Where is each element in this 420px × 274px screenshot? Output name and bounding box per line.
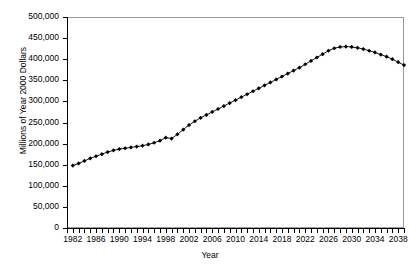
- x-axis-tick-mark: [119, 229, 120, 233]
- x-axis-tick-mark: [369, 229, 370, 233]
- x-axis-tick-mark: [73, 229, 74, 233]
- x-axis-tick-mark: [143, 229, 144, 233]
- x-axis-tick-mark: [189, 229, 190, 233]
- x-axis-tick-mark: [288, 229, 289, 233]
- x-axis-tick-mark: [270, 229, 271, 233]
- x-axis-tick-mark: [154, 229, 155, 233]
- x-axis-tick-mark: [84, 229, 85, 233]
- y-axis-tick-label: 400,000: [3, 54, 59, 63]
- y-axis-tick-label: 200,000: [3, 139, 59, 148]
- x-axis-tick-mark: [398, 229, 399, 233]
- x-axis-tick-mark: [230, 229, 231, 233]
- y-axis-tick-mark: [63, 80, 67, 81]
- y-axis-title: Millions of Year 2000 Dollars: [19, 11, 28, 191]
- y-axis-tick-label: 500,000: [3, 12, 59, 21]
- x-axis-tick-mark: [340, 229, 341, 233]
- chart-figure: 050,000100,000150,000200,000250,000300,0…: [0, 0, 420, 274]
- x-axis-tick-mark: [224, 229, 225, 233]
- x-axis-tick-mark: [206, 229, 207, 233]
- x-axis-tick-mark: [137, 229, 138, 233]
- x-axis-tick-mark: [392, 229, 393, 233]
- x-axis-tick-mark: [96, 229, 97, 233]
- y-axis-tick-label: 300,000: [3, 96, 59, 105]
- plot-area: [67, 17, 404, 228]
- x-axis-tick-mark: [172, 229, 173, 233]
- x-axis-tick-mark: [299, 229, 300, 233]
- x-axis-tick-mark: [241, 229, 242, 233]
- x-axis-tick-mark: [282, 229, 283, 233]
- x-axis-tick-mark: [375, 229, 376, 233]
- x-axis-tick-mark: [102, 229, 103, 233]
- x-axis-tick-mark: [352, 229, 353, 233]
- y-axis-tick-mark: [63, 186, 67, 187]
- x-axis-tick-mark: [346, 229, 347, 233]
- x-axis-tick-mark: [334, 229, 335, 233]
- x-axis-tick-mark: [381, 229, 382, 233]
- y-axis-tick-mark: [63, 207, 67, 208]
- x-axis-tick-mark: [212, 229, 213, 233]
- x-axis-tick-mark: [125, 229, 126, 233]
- x-axis-tick-mark: [305, 229, 306, 233]
- x-axis-tick-mark: [363, 229, 364, 233]
- y-axis-tick-mark: [63, 123, 67, 124]
- x-axis-tick-mark: [294, 229, 295, 233]
- y-axis-tick-label: 100,000: [3, 181, 59, 190]
- x-axis-tick-mark: [404, 229, 405, 233]
- y-axis-tick-mark: [63, 165, 67, 166]
- x-axis-tick-mark: [79, 229, 80, 233]
- x-axis-tick-mark: [236, 229, 237, 233]
- y-axis-line: [67, 17, 68, 229]
- x-axis-tick-mark: [218, 229, 219, 233]
- x-axis-tick-mark: [247, 229, 248, 233]
- y-axis-tick-label: 450,000: [3, 33, 59, 42]
- x-axis-tick-mark: [358, 229, 359, 233]
- x-axis-tick-mark: [160, 229, 161, 233]
- x-axis-title: Year: [0, 250, 420, 260]
- y-axis-tick-mark: [63, 38, 67, 39]
- y-axis-tick-label: 0: [3, 223, 59, 232]
- y-axis-tick-label: 350,000: [3, 75, 59, 84]
- x-axis-tick-label: 2038: [378, 234, 418, 244]
- x-axis-tick-mark: [387, 229, 388, 233]
- x-axis-tick-mark: [67, 229, 68, 233]
- x-axis-tick-mark: [113, 229, 114, 233]
- x-axis-tick-mark: [259, 229, 260, 233]
- x-axis-tick-mark: [253, 229, 254, 233]
- x-axis-tick-mark: [201, 229, 202, 233]
- x-axis-tick-mark: [317, 229, 318, 233]
- x-axis-tick-mark: [323, 229, 324, 233]
- y-axis-tick-mark: [63, 17, 67, 18]
- x-axis-tick-mark: [311, 229, 312, 233]
- y-axis-tick-mark: [63, 101, 67, 102]
- y-axis-tick-label: 150,000: [3, 160, 59, 169]
- y-axis-tick-label: 250,000: [3, 118, 59, 127]
- x-axis-tick-mark: [183, 229, 184, 233]
- y-axis-tick-label: 50,000: [3, 202, 59, 211]
- x-axis-tick-mark: [328, 229, 329, 233]
- y-axis-tick-mark: [63, 144, 67, 145]
- x-axis-tick-mark: [177, 229, 178, 233]
- x-axis-tick-mark: [265, 229, 266, 233]
- x-axis-tick-mark: [166, 229, 167, 233]
- x-axis-tick-mark: [195, 229, 196, 233]
- x-axis-tick-mark: [108, 229, 109, 233]
- x-axis-tick-mark: [148, 229, 149, 233]
- x-axis-tick-mark: [276, 229, 277, 233]
- y-axis-tick-mark: [63, 59, 67, 60]
- x-axis-tick-mark: [131, 229, 132, 233]
- x-axis-tick-mark: [90, 229, 91, 233]
